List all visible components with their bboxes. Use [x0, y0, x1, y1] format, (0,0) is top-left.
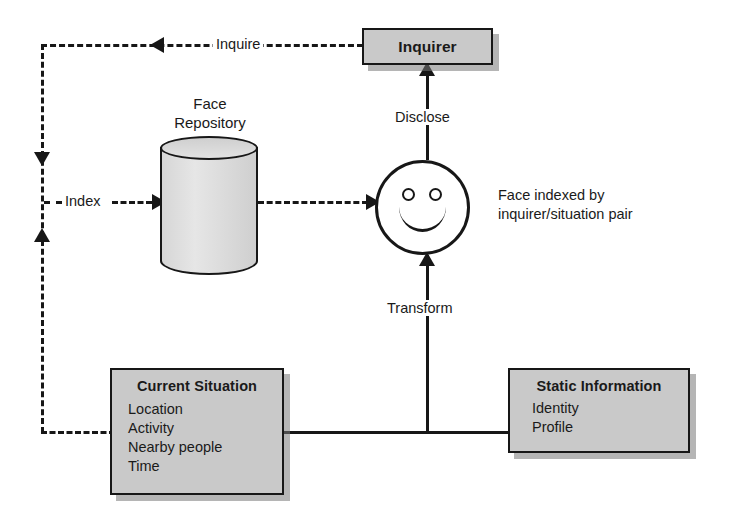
node-repository-label-line1: Face [130, 95, 290, 114]
cylinder-body [160, 147, 258, 275]
list-item: Nearby people [128, 438, 282, 457]
list-item: Identity [532, 399, 688, 418]
list-item: Time [128, 457, 282, 476]
node-current-situation[interactable]: Current Situation Location Activity Near… [110, 368, 284, 495]
node-face-annotation: Face indexed by inquirer/situation pair [498, 186, 633, 224]
node-face-smiley[interactable] [375, 160, 470, 255]
dashed-edge-index-left [44, 201, 62, 204]
node-static-information[interactable]: Static Information Identity Profile [508, 368, 690, 453]
dashed-edge-situation-feedback [41, 431, 115, 434]
edge-label-disclose: Disclose [392, 109, 453, 125]
diagram-canvas: Inquire Index Disclose Transform Inquire… [0, 0, 733, 530]
edge-situation-to-static-line [283, 431, 509, 434]
edge-label-inquire: Inquire [213, 36, 263, 52]
list-item: Activity [128, 419, 282, 438]
face-right-eye-icon [429, 188, 442, 201]
node-repository-label-line2: Repository [130, 114, 290, 133]
node-static-information-title: Static Information [510, 379, 688, 395]
list-item: Location [128, 400, 282, 419]
dashed-edge-inquire-top [41, 44, 363, 47]
dashed-edge-repository-to-face [258, 201, 368, 204]
node-inquirer-title: Inquirer [398, 38, 457, 55]
node-face-annotation-line1: Face indexed by [498, 186, 633, 205]
node-repository-cylinder[interactable] [160, 136, 258, 276]
node-face-annotation-line2: inquirer/situation pair [498, 205, 633, 224]
face-left-eye-icon [402, 188, 415, 201]
edge-label-transform: Transform [384, 300, 456, 316]
arrowhead-left-down [34, 152, 50, 166]
edge-label-index: Index [62, 193, 103, 209]
cylinder-top-ellipse [160, 136, 258, 160]
dashed-edge-index-right [112, 201, 152, 204]
node-inquirer[interactable]: Inquirer [362, 28, 493, 65]
node-repository-label: Face Repository [130, 95, 290, 133]
arrowhead-inquire [150, 37, 164, 53]
node-static-information-items: Identity Profile [510, 399, 688, 437]
arrowhead-left-up [34, 228, 50, 242]
list-item: Profile [532, 418, 688, 437]
node-current-situation-items: Location Activity Nearby people Time [112, 400, 282, 477]
node-current-situation-title: Current Situation [112, 379, 282, 395]
edge-transform-line [426, 255, 429, 432]
